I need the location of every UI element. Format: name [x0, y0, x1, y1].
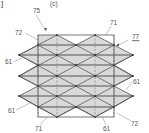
label-72-bottom: 72 [131, 120, 139, 127]
label-72-top: 72 [15, 29, 23, 36]
label-61-left-top: 61 [5, 58, 13, 65]
label-77: 77 [132, 33, 140, 40]
patent-figure: ] (c) [0, 0, 149, 133]
corner-mark: ] [1, 0, 3, 8]
label-61-left-bottom: 61 [8, 107, 16, 114]
label-61-bottom: 61 [103, 125, 111, 132]
label-61-right: 61 [133, 78, 141, 85]
diamond-lattice [18, 34, 134, 118]
label-75: 75 [33, 7, 41, 14]
label-71-bottom: 71 [35, 125, 43, 132]
label-71-top: 71 [110, 19, 118, 26]
panel-label: (c) [50, 0, 58, 8]
